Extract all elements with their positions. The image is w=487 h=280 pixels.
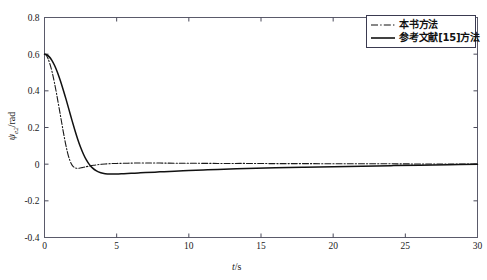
y-axis-subscript: e2 xyxy=(12,127,20,134)
plot-frame xyxy=(45,18,478,238)
y-axis-symbol: ψ xyxy=(6,134,17,140)
legend-label-0: 本书方法 xyxy=(399,19,438,30)
y-tick-label: -0.4 xyxy=(24,233,39,243)
x-tick-label: 0 xyxy=(42,241,47,251)
x-tick-label: 20 xyxy=(328,241,338,251)
axis-ticks xyxy=(45,18,478,238)
data-curves xyxy=(45,54,478,174)
x-tick-label: 10 xyxy=(184,241,194,251)
y-tick-label: 0.8 xyxy=(28,13,40,23)
x-tick-label: 5 xyxy=(114,241,119,251)
series-line-1 xyxy=(45,54,478,174)
legend-swatch-solid xyxy=(370,33,396,43)
y-tick-label: -0.2 xyxy=(24,196,39,206)
y-tick-label: 0.6 xyxy=(28,50,40,60)
y-tick-label: 0.4 xyxy=(28,86,40,96)
y-axis-units: /rad xyxy=(6,112,17,128)
axis-tick-labels: 051015202530-0.4-0.200.20.40.60.8 xyxy=(24,13,482,251)
legend: 本书方法 参考文献[15]方法 xyxy=(366,15,476,48)
x-axis-units: /s xyxy=(235,261,242,272)
figure-container: 051015202530-0.4-0.200.20.40.60.8 ψe2/ra… xyxy=(0,0,487,280)
legend-item: 参考文献[15]方法 xyxy=(370,31,472,44)
legend-label-1: 参考文献[15]方法 xyxy=(399,32,480,43)
legend-swatch-dash-dot xyxy=(370,20,396,30)
x-tick-label: 25 xyxy=(401,241,411,251)
x-tick-label: 15 xyxy=(256,241,266,251)
y-tick-label: 0 xyxy=(35,160,40,170)
x-axis-title: t/s xyxy=(232,261,241,272)
series-line-0 xyxy=(45,54,478,168)
legend-item: 本书方法 xyxy=(370,18,472,31)
y-tick-label: 0.2 xyxy=(28,123,40,133)
y-axis-title: ψe2/rad xyxy=(6,96,20,156)
x-tick-label: 30 xyxy=(473,241,483,251)
